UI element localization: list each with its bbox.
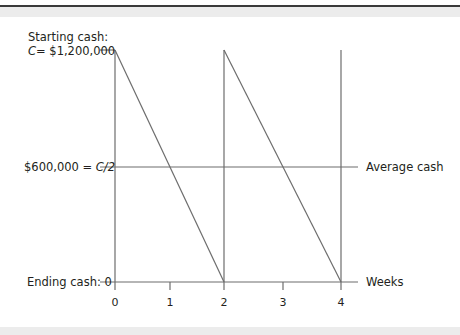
- cash-decline-2: [224, 50, 341, 282]
- starting-cash-label: Starting cash:: [28, 30, 108, 44]
- tick-label-0: 0: [105, 296, 125, 309]
- starting-cash-value: C= $1,200,000: [28, 44, 115, 58]
- x-axis-label: Weeks: [366, 275, 404, 289]
- tick-label-4: 4: [331, 296, 351, 309]
- tick-label-2: 2: [214, 296, 234, 309]
- starting-cash-amount: = $1,200,000: [36, 44, 115, 58]
- half-cash-label: $600,000 = C/2: [24, 160, 115, 174]
- tick-label-3: 3: [273, 296, 293, 309]
- average-cash-label: Average cash: [366, 160, 444, 174]
- tick-label-1: 1: [160, 296, 180, 309]
- half-cash-formula: C/2: [96, 160, 115, 174]
- ending-cash-label: Ending cash: 0: [27, 275, 112, 289]
- c-symbol: C: [28, 44, 36, 58]
- cash-decline-1: [115, 50, 224, 282]
- half-cash-amount: $600,000 =: [24, 160, 96, 174]
